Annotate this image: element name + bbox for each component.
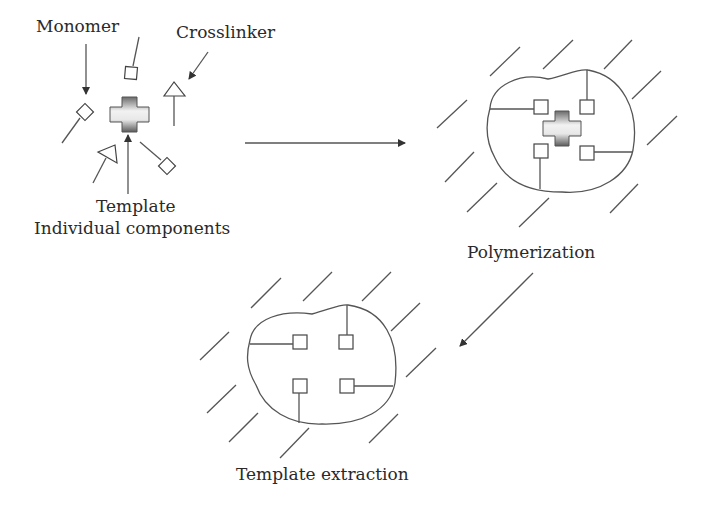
stage-label-template-extraction: Template extraction (236, 466, 409, 483)
template-icon (543, 111, 581, 146)
empty-cavities (250, 305, 393, 423)
crosslinker-pointer-arrow (189, 52, 208, 79)
monomer-icon (124, 37, 139, 80)
stage-template-extraction (200, 272, 436, 458)
crosslinker-icon (93, 145, 117, 183)
diagram-canvas (0, 0, 701, 505)
stage-label-polymerization: Polymerization (467, 244, 595, 261)
monomer-icon (140, 142, 175, 174)
monomer-icon (62, 104, 93, 143)
polymer-matrix-hatching (200, 272, 436, 458)
polymer-boundary (248, 305, 396, 424)
crosslinker-icon (164, 82, 185, 126)
monomer-label: Monomer (36, 18, 119, 35)
stage-individual-components (62, 37, 208, 194)
crosslinker-label: Crosslinker (176, 24, 275, 41)
template-label: Template (96, 198, 176, 215)
stage-polymerization (437, 40, 677, 227)
template-icon (110, 97, 149, 132)
stage-label-individual-components: Individual components (34, 220, 230, 237)
flow-arrow-to-extraction (460, 273, 533, 346)
